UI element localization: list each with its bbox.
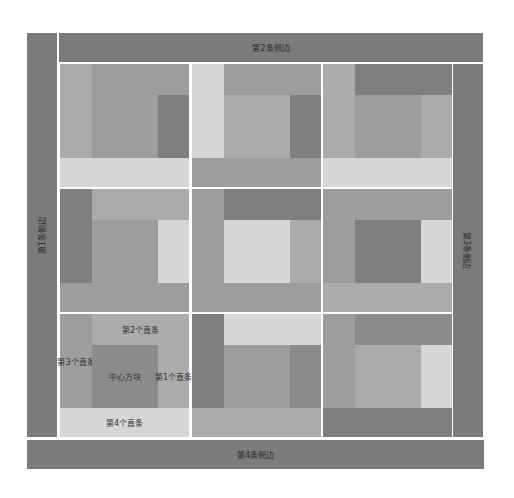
right-strip <box>421 95 452 158</box>
center-square <box>92 95 158 158</box>
right-strip <box>290 345 321 408</box>
center-square <box>355 95 421 158</box>
bottom-strip <box>323 283 452 312</box>
bottom-strip <box>192 408 321 437</box>
side-strip-2-label: 第2条侧边 <box>252 42 289 53</box>
cell-middle-left <box>60 189 189 312</box>
left-strip <box>192 64 224 158</box>
right-strip-label: 第1个直条 <box>155 371 192 382</box>
left-strip <box>192 314 224 408</box>
left-strip <box>192 189 224 283</box>
cell-middle-right <box>323 189 452 312</box>
cell-middle-center <box>192 189 321 312</box>
center-square <box>224 220 290 283</box>
center-square <box>224 345 290 408</box>
bottom-strip: 第4个直条 <box>60 408 189 437</box>
bottom-strip-label: 第4个直条 <box>106 417 143 428</box>
right-strip <box>158 220 189 283</box>
side-strip-4: 第4条侧边 <box>27 440 484 469</box>
bottom-strip <box>323 408 452 437</box>
top-strip <box>355 189 452 220</box>
top-strip <box>224 64 321 95</box>
bottom-strip <box>60 283 189 312</box>
bottom-strip <box>192 283 321 312</box>
left-strip <box>323 314 355 408</box>
top-strip <box>92 64 189 95</box>
side-strip-2: 第2条侧边 <box>59 33 483 62</box>
left-strip <box>60 189 92 283</box>
cell-top-center <box>192 64 321 187</box>
side-strip-1: 第1条侧边 <box>27 33 57 437</box>
center-square <box>355 345 421 408</box>
cell-bottom-right <box>323 314 452 437</box>
center-square <box>224 95 290 158</box>
top-strip <box>355 64 452 95</box>
bottom-strip <box>192 158 321 187</box>
left-strip <box>60 64 92 158</box>
top-strip <box>224 189 321 220</box>
center-square <box>355 220 421 283</box>
bottom-strip <box>323 158 452 187</box>
side-strip-4-label: 第4条侧边 <box>237 449 274 460</box>
top-strip <box>92 189 189 220</box>
cell-top-left <box>60 64 189 187</box>
top-strip-label: 第2个直条 <box>122 324 159 335</box>
left-strip-label: 第3个直条 <box>57 356 94 367</box>
right-strip <box>290 220 321 283</box>
side-strip-3-label: 第3条侧边 <box>463 232 474 269</box>
right-strip <box>421 220 452 283</box>
bottom-strip <box>60 158 189 187</box>
cell-top-right <box>323 64 452 187</box>
center-square: 中心方块 <box>92 345 158 408</box>
top-strip: 第2个直条 <box>92 314 189 345</box>
center-square <box>92 220 158 283</box>
cell-bottom-left: 第3个直条第2个直条中心方块第1个直条第4个直条 <box>60 314 189 437</box>
right-strip: 第1个直条 <box>158 345 189 408</box>
top-strip <box>224 314 321 345</box>
side-strip-3: 第3条侧边 <box>453 64 483 437</box>
cell-bottom-center <box>192 314 321 437</box>
left-strip <box>323 64 355 158</box>
right-strip <box>290 95 321 158</box>
top-strip <box>355 314 452 345</box>
left-strip <box>323 189 355 283</box>
center-square-label: 中心方块 <box>109 371 141 382</box>
right-strip <box>158 95 189 158</box>
side-strip-1-label: 第1条侧边 <box>37 216 48 253</box>
left-strip: 第3个直条 <box>60 314 92 408</box>
right-strip <box>421 345 452 408</box>
